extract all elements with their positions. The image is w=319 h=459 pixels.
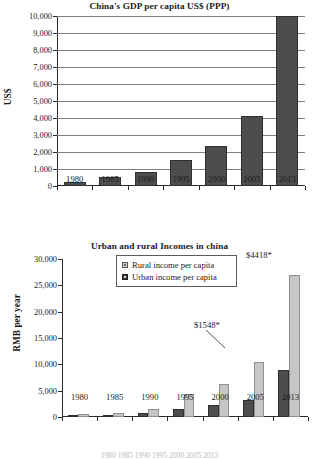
x-axis-tick — [238, 417, 239, 421]
legend-label-rural: Rural income per capita — [132, 260, 214, 271]
y-axis-label: RMB per year — [12, 278, 22, 368]
bar — [78, 414, 89, 417]
y-axis-tick-label: 0 — [5, 413, 57, 422]
x-axis-tick — [234, 186, 235, 190]
x-axis-tick — [305, 186, 306, 190]
y-axis-tick-label: 15,000 — [5, 334, 57, 343]
x-axis-tick — [308, 417, 309, 421]
y-axis-tick — [58, 338, 62, 339]
annotation-rural-2013: $4418* — [246, 250, 272, 260]
y-axis-tick — [53, 50, 57, 51]
bar — [113, 413, 124, 417]
x-axis-tick-label: 2013 — [268, 392, 312, 402]
y-axis-tick — [53, 101, 57, 102]
x-axis-tick — [273, 417, 274, 421]
gridline — [57, 118, 305, 119]
gridline — [57, 135, 305, 136]
y-axis-tick-label: 0 — [2, 182, 52, 191]
y-axis-tick — [53, 84, 57, 85]
y-axis-tick — [53, 33, 57, 34]
legend-label-urban: Urban income per capita — [132, 272, 217, 283]
y-axis-tick-label: 10,000 — [2, 12, 52, 21]
gridline — [57, 50, 305, 51]
y-axis-tick — [58, 312, 62, 313]
gdp-per-capita-chart: China's GDP per capita US$ (PPP) US$ 01,… — [0, 0, 319, 230]
gridline — [57, 67, 305, 68]
gridline — [57, 16, 305, 17]
y-axis-tick-label: 6,000 — [2, 80, 52, 89]
x-axis-tick — [167, 417, 168, 421]
y-axis-tick — [53, 67, 57, 68]
y-axis-tick-label: 5,000 — [5, 386, 57, 395]
y-axis-tick-label: 30,000 — [5, 255, 57, 264]
bar — [148, 409, 159, 417]
bar — [138, 413, 149, 417]
bar — [103, 415, 114, 417]
gridline — [57, 84, 305, 85]
y-axis-tick — [53, 16, 57, 17]
y-axis-tick-label: 25,000 — [5, 281, 57, 290]
y-axis-tick-label: 20,000 — [5, 307, 57, 316]
annotation-urban-2013: $1548* — [194, 320, 220, 330]
y-axis-tick-label: 3,000 — [2, 131, 52, 140]
y-axis-tick-label: 5,000 — [2, 97, 52, 106]
y-axis-tick-label: 10,000 — [5, 360, 57, 369]
bar — [276, 16, 298, 186]
bar — [208, 405, 219, 417]
urban-rural-income-chart: Urban and rural Incomes in china RMB per… — [0, 230, 319, 459]
bar — [173, 409, 184, 417]
chart-legend: Rural income per capita Urban income per… — [116, 255, 237, 287]
x-axis-tick — [132, 417, 133, 421]
y-axis-tick-label: 8,000 — [2, 46, 52, 55]
y-axis-tick — [58, 417, 62, 418]
y-axis-tick — [58, 364, 62, 365]
x-axis-tick — [92, 186, 93, 190]
gridline — [57, 101, 305, 102]
footer-cutoff-text: 1980 1985 1990 1995 2000 2005 2013 — [0, 451, 319, 459]
x-axis-tick — [97, 417, 98, 421]
y-axis-tick — [58, 285, 62, 286]
x-axis-tick — [199, 186, 200, 190]
gridline — [57, 33, 305, 34]
legend-swatch-icon-rural — [122, 262, 128, 268]
y-axis-tick-label: 4,000 — [2, 114, 52, 123]
legend-swatch-icon-urban — [122, 274, 128, 280]
y-axis-tick — [53, 152, 57, 153]
bar — [243, 400, 254, 417]
legend-item-rural: Rural income per capita — [122, 259, 230, 271]
y-axis-tick — [53, 118, 57, 119]
x-axis-tick — [203, 417, 204, 421]
y-axis-tick-label: 7,000 — [2, 63, 52, 72]
x-axis-tick — [62, 417, 63, 421]
y-axis-tick — [53, 135, 57, 136]
x-axis-tick — [57, 186, 58, 190]
x-axis-tick — [128, 186, 129, 190]
x-axis-tick — [270, 186, 271, 190]
bar — [68, 415, 79, 417]
legend-item-urban: Urban income per capita — [122, 271, 230, 283]
x-axis-tick — [163, 186, 164, 190]
y-axis-tick-label: 9,000 — [2, 29, 52, 38]
y-axis-tick-label: 1,000 — [2, 165, 52, 174]
plot-area — [57, 16, 305, 186]
bar — [254, 362, 265, 417]
y-axis-tick — [53, 169, 57, 170]
chart-title: China's GDP per capita US$ (PPP) — [0, 1, 319, 11]
y-axis-tick — [58, 259, 62, 260]
gridline — [57, 152, 305, 153]
y-axis-tick-label: 2,000 — [2, 148, 52, 157]
x-axis-tick-label: 2013 — [265, 174, 309, 184]
